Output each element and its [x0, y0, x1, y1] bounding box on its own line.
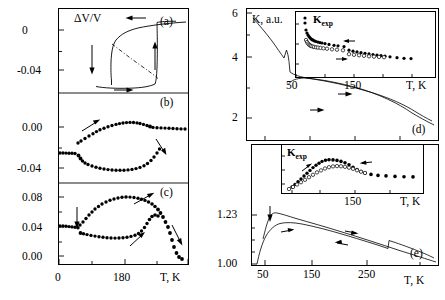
panel-a-series — [89, 16, 186, 93]
panel-a-arrow-cooling — [89, 45, 94, 75]
panel-e-series — [257, 206, 436, 264]
panel-e-arrow-dir-1 — [281, 228, 294, 232]
panel-b-series-heating — [58, 147, 161, 172]
panel-e-tick-marks — [252, 215, 421, 266]
panel-d-inset-frame — [296, 12, 436, 78]
panel-c-series-cooling — [78, 195, 184, 261]
panel-d-inset-arrow-upper — [343, 39, 355, 43]
panel-a-arrow-upper-dir — [126, 16, 147, 21]
panel-d-tick-marks — [247, 13, 401, 141]
left-xtick-marks — [59, 259, 188, 265]
panel-e-inset-filled-series — [290, 158, 415, 189]
left-ytick-marks — [59, 30, 65, 256]
figure-canvas — [0, 0, 445, 300]
panel-d-series — [253, 18, 434, 125]
panel-d-arrow-heating-dir — [310, 108, 325, 113]
panel-b-arrow-cooling-dir — [82, 120, 100, 131]
panel-e-inset-arrow-fall — [360, 161, 372, 165]
panel-d-inset-arrow-lower — [336, 57, 348, 61]
panel-c-arrow-drop-dir — [172, 225, 182, 246]
panel-d-arrow-cooling-dir — [338, 92, 353, 97]
panel-e-arrow-dir-2 — [345, 231, 358, 235]
panel-e-arrow-dir-3 — [335, 240, 348, 245]
figure-root: 0 -0.04 0.00 -0.04 0.08 0.04 0.00 0 180 … — [0, 0, 445, 300]
panel-e-inset-open-series — [287, 164, 366, 190]
panel-c-series-heating — [58, 213, 160, 240]
panel-d-frame — [247, 9, 439, 141]
